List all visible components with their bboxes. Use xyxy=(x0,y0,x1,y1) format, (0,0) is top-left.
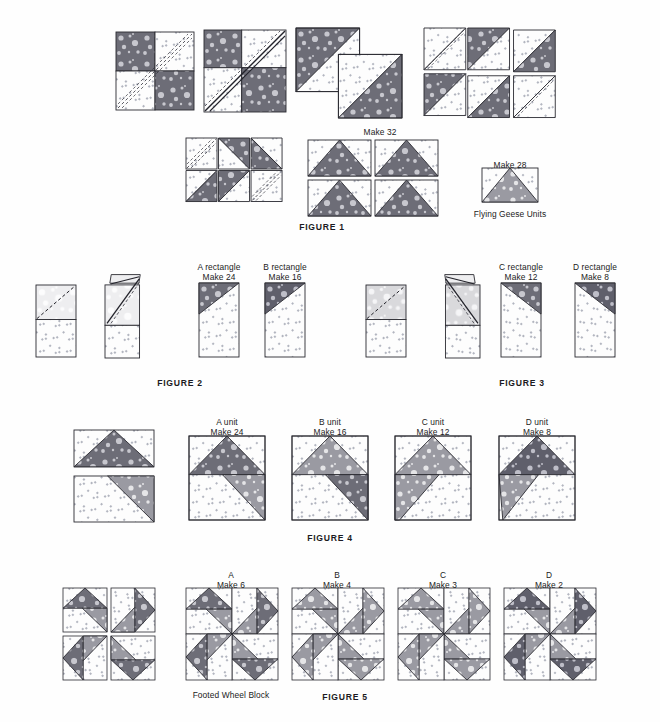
block-c-make: Make 3 xyxy=(429,580,457,590)
block-b xyxy=(292,588,384,680)
block-b-make: Make 4 xyxy=(323,580,351,590)
block-d-label: D xyxy=(546,570,552,580)
rect-base-marked-c xyxy=(366,285,406,357)
four-patch-stitched xyxy=(204,30,286,112)
a-rectangle-label: A rectangle xyxy=(197,262,240,272)
figure-5: AMake 6BMake 4CMake 3DMake 2Footed Wheel… xyxy=(0,0,660,722)
exploded-unit-parts xyxy=(74,430,154,522)
a-unit xyxy=(189,436,265,520)
hst-pair-cut xyxy=(296,28,402,118)
b-rectangle-label: B rectangle xyxy=(263,262,306,272)
figure-4-caption: FIGURE 4 xyxy=(307,533,353,543)
d-unit-label: D unit xyxy=(526,417,548,427)
block-exploded xyxy=(63,588,155,680)
c-rectangle-label: C rectangle xyxy=(499,262,543,272)
c-unit xyxy=(395,436,471,520)
four-patch-marked xyxy=(116,32,194,110)
pinwheel-assembled xyxy=(186,138,280,220)
d-rectangle-make: Make 8 xyxy=(581,272,609,282)
c-rectangle-make: Make 12 xyxy=(505,272,538,282)
c-rectangle-unit xyxy=(501,283,541,357)
block-d-make: Make 2 xyxy=(535,580,563,590)
figure-3: C rectangleMake 12D rectangleMake 8FIGUR… xyxy=(0,0,660,722)
make-28-label: Make 28 xyxy=(494,160,527,170)
rect-folded-a xyxy=(105,272,153,358)
b-rectangle-make: Make 16 xyxy=(269,272,302,282)
a-unit-make: Make 24 xyxy=(211,427,244,437)
block-a-label: A xyxy=(228,570,234,580)
make-32-label: Make 32 xyxy=(364,127,397,137)
figure-1-caption: FIGURE 1 xyxy=(299,222,345,232)
d-rectangle-label: D rectangle xyxy=(573,262,617,272)
flying-geese-grid xyxy=(308,140,438,216)
block-d xyxy=(504,588,596,680)
hst-pinwheel-open xyxy=(424,28,540,120)
c-unit-label: C unit xyxy=(422,417,444,427)
rect-base-marked-a xyxy=(36,285,76,357)
d-unit xyxy=(499,436,575,520)
block-a-make: Make 6 xyxy=(217,580,245,590)
block-c xyxy=(398,588,490,680)
b-unit-make: Make 16 xyxy=(314,427,347,437)
a-rectangle-unit xyxy=(199,283,239,357)
instruction-sheet: Make 32Make 28Flying Geese UnitsFIGURE 1… xyxy=(0,0,660,722)
figure-3-caption: FIGURE 3 xyxy=(499,378,545,388)
figure-2-caption: FIGURE 2 xyxy=(157,378,203,388)
figure-2: A rectangleMake 24B rectangleMake 16FIGU… xyxy=(0,0,660,722)
d-rectangle-unit xyxy=(575,283,615,357)
figure-5-caption: FIGURE 5 xyxy=(322,692,368,702)
footed-wheel-block-label: Footed Wheel Block xyxy=(193,690,270,700)
block-c-label: C xyxy=(440,570,446,580)
a-unit-label: A unit xyxy=(216,417,238,427)
flying-geese-units-label: Flying Geese Units xyxy=(474,209,547,219)
a-rectangle-make: Make 24 xyxy=(203,272,236,282)
figure-4: A unitMake 24B unitMake 16C unitMake 12D… xyxy=(0,0,660,722)
flying-geese-single xyxy=(482,168,538,202)
b-unit xyxy=(292,436,368,520)
b-rectangle-unit xyxy=(265,283,305,357)
d-unit-make: Make 8 xyxy=(523,427,551,437)
block-a xyxy=(186,588,278,680)
rect-folded-c xyxy=(432,272,480,358)
b-unit-label: B unit xyxy=(319,417,341,427)
figure-1: Make 32Make 28Flying Geese UnitsFIGURE 1 xyxy=(0,0,660,722)
block-b-label: B xyxy=(334,570,340,580)
c-unit-make: Make 12 xyxy=(417,427,450,437)
